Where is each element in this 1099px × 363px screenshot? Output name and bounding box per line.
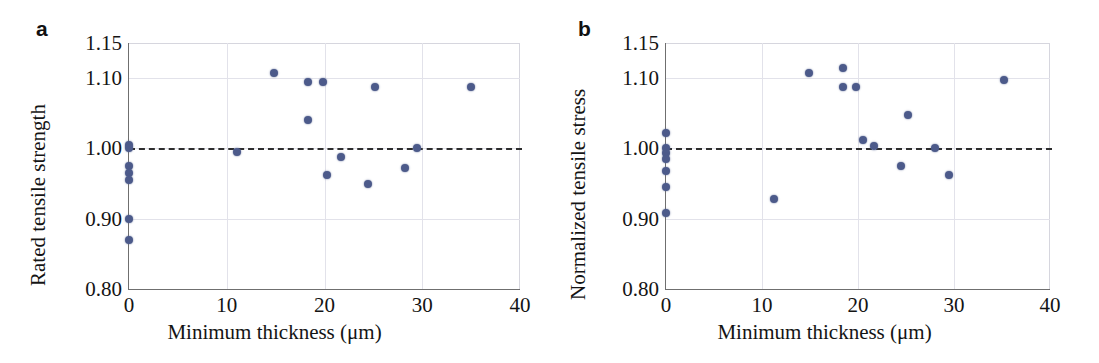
gridline-vertical [858,43,859,289]
panel-a: a 1.151.101.000.900.80 010203040 Rated t… [0,0,549,363]
data-point [323,171,331,179]
x-tick-label: 20 [848,295,869,316]
gridline-vertical [762,43,763,289]
y-tick-label: 0.80 [85,279,122,300]
figure-container: a 1.151.101.000.900.80 010203040 Rated t… [0,0,1099,363]
data-point [770,195,778,203]
y-tick-label: 1.15 [622,33,659,54]
x-tick-label: 10 [752,295,773,316]
data-point [125,236,133,244]
data-point [304,116,312,124]
data-point [233,148,241,156]
data-point [125,215,133,223]
panel-b-y-axis-title: Normalized tensile stress [568,89,589,300]
panel-b-x-axis-title: Minimum thickness (μm) [550,322,1099,343]
x-tick-label: 30 [944,295,965,316]
data-point [125,144,133,152]
data-point [839,83,847,91]
data-point [662,167,670,175]
data-point [904,111,912,119]
data-point [467,83,475,91]
y-tick-label: 1.15 [85,33,122,54]
x-tick-label: 0 [661,295,672,316]
y-tick-label: 0.90 [85,208,122,229]
data-point [662,209,670,217]
panel-a-right-rule [519,43,520,289]
panel-a-y-axis-title: Rated tensile strength [28,104,49,286]
data-point [897,162,905,170]
data-point [337,153,345,161]
x-tick-label: 30 [412,295,433,316]
data-point [945,171,953,179]
data-point [1000,76,1008,84]
y-tick-label: 0.80 [622,279,659,300]
data-point [805,69,813,77]
gridline-vertical [954,43,955,289]
data-point [931,144,939,152]
y-tick-label: 1.10 [622,68,659,89]
data-point [859,136,867,144]
x-tick-label: 40 [1040,295,1061,316]
gridline-vertical [227,43,228,289]
reference-line [129,148,522,150]
data-point [401,164,409,172]
data-point [413,144,421,152]
gridline-vertical [422,43,423,289]
data-point [662,183,670,191]
y-tick-label: 1.10 [85,68,122,89]
data-point [125,176,133,184]
panel-a-plot-area: 1.151.101.000.900.80 010203040 [128,43,520,290]
panel-b-label: b [578,18,591,39]
y-tick-label: 0.90 [622,208,659,229]
panel-a-label: a [36,18,48,39]
data-point [839,64,847,72]
panel-b: b 1.151.101.000.900.80 010203040 Normali… [550,0,1099,363]
y-tick-label: 1.00 [85,138,122,159]
data-point [319,78,327,86]
x-tick-label: 10 [216,295,237,316]
data-point [270,69,278,77]
panel-a-x-axis-title: Minimum thickness (μm) [0,322,549,343]
reference-line [666,148,1052,150]
data-point [852,83,860,91]
panel-b-plot-area: 1.151.101.000.900.80 010203040 [665,43,1050,290]
y-tick-label: 1.00 [622,138,659,159]
x-tick-label: 0 [124,295,135,316]
x-tick-label: 40 [510,295,531,316]
data-point [371,83,379,91]
panel-b-right-rule [1049,43,1050,289]
data-point [662,155,670,163]
data-point [364,180,372,188]
data-point [662,129,670,137]
data-point [304,78,312,86]
x-tick-label: 20 [314,295,335,316]
data-point [870,142,878,150]
